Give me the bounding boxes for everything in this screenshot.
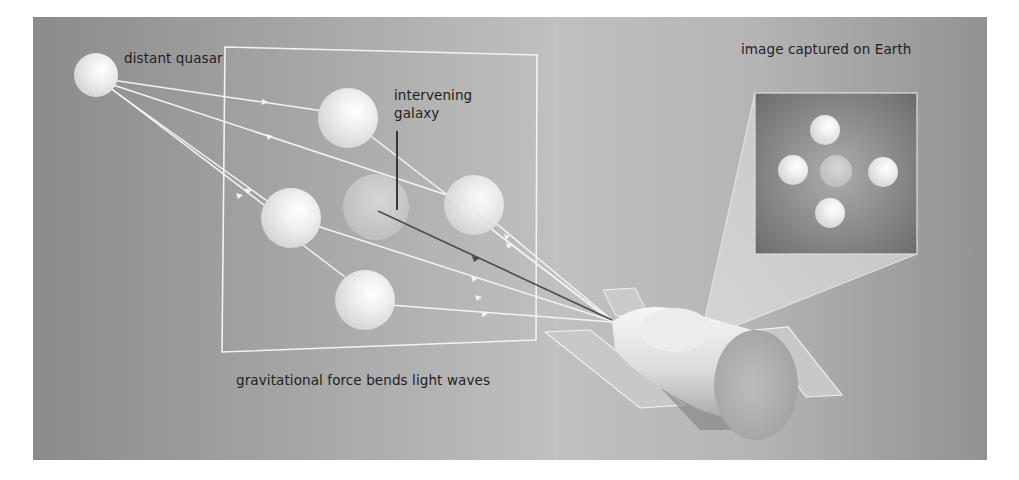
quasar-label: distant quasar xyxy=(124,50,223,67)
galaxy-label-line1: intervening xyxy=(394,87,472,104)
diagram-canvas xyxy=(0,0,1019,480)
inset-spot-left xyxy=(778,155,808,185)
lensed-image-right xyxy=(444,175,504,235)
quasar-sphere xyxy=(74,53,118,97)
inset-spot-center xyxy=(820,155,852,187)
telescope-dome xyxy=(639,308,711,352)
caption-label: gravitational force bends light waves xyxy=(236,372,490,389)
inset-spot-right xyxy=(868,157,898,187)
telescope-aperture xyxy=(714,330,798,440)
lensed-image-bottom xyxy=(335,270,395,330)
intervening-galaxy-sphere xyxy=(343,174,409,240)
lensed-image-top xyxy=(318,88,378,148)
lensed-image-left xyxy=(261,188,321,248)
observed-image-label: image captured on Earth xyxy=(741,41,911,58)
galaxy-label-line2: galaxy xyxy=(394,105,439,122)
inset-spot-top xyxy=(810,115,840,145)
gravitational-lensing-diagram: distant quasar intervening galaxy image … xyxy=(0,0,1019,480)
inset-spot-bottom xyxy=(815,198,845,228)
observed-image-inset xyxy=(755,93,917,254)
